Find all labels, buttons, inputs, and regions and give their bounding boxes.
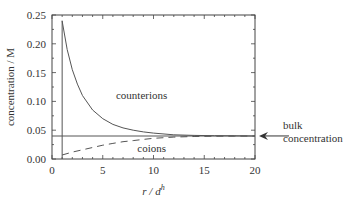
bulk-label-line2: concentration [283,132,343,144]
x-tick-label: 20 [250,164,262,176]
counterions-label: counterions [116,89,167,101]
x-tick-label: 15 [199,164,211,176]
plot-area: 051015200.000.050.100.150.200.25r / dhco… [4,9,343,197]
x-tick-label: 10 [148,164,160,176]
x-tick-label: 5 [100,164,106,176]
counterions-curve [62,21,255,136]
y-tick-label: 0.20 [27,38,47,50]
y-tick-label: 0.10 [27,95,47,107]
x-tick-label: 0 [49,164,55,176]
y-axis-label: concentration / M [4,48,16,126]
concentration-chart: 051015200.000.050.100.150.200.25r / dhco… [0,0,346,204]
y-tick-label: 0.25 [27,9,47,21]
y-tick-label: 0.05 [27,124,47,136]
coions-label: coions [137,142,166,154]
x-axis-label: r / dh [142,183,164,197]
plot-frame [52,15,255,159]
bulk-label-line1: bulk [283,119,303,131]
y-tick-label: 0.00 [27,153,47,165]
y-tick-label: 0.15 [27,67,47,79]
